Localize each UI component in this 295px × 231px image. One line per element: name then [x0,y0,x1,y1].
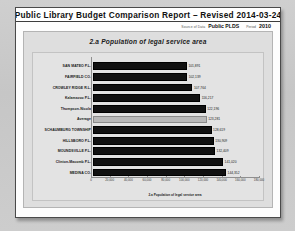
bar [93,94,200,102]
x-axis-tick-mark [184,176,185,178]
x-axis-tick-mark [222,176,223,178]
x-axis-tick-label: 140,000 [216,178,226,182]
bar-category-label: Kalamazoo P.L. [33,96,93,100]
bar-value-label: 144,352 [228,171,240,175]
bar-category-label: Clinton-Macomb P.L. [33,160,93,164]
bar-track: 141,020 [93,157,259,168]
bar-row: Clinton-Macomb P.L.141,020 [33,157,259,168]
bar-value-label: 122,196 [207,107,219,111]
x-axis-tick-mark [259,176,260,178]
bar-track: 132,409 [93,146,259,157]
source-period-line: Source of Data Public PLDS Period 2010 [181,23,271,29]
bar [93,126,212,134]
period-value: 2010 [259,23,271,29]
x-axis-ticks: 020,00040,00060,00080,000100,000120,0001… [91,178,259,187]
bar-row: Average123,281 [33,114,259,125]
bar-category-label: CROWLEY RIDGE R.L. [33,86,93,90]
bar-category-label: MEDINA CO. [33,171,93,175]
bar-value-label: 141,020 [225,160,237,164]
bar-category-label: Average [33,117,93,121]
bar [93,84,192,92]
bar-row: FAIRFIELD CO.102,139 [33,72,259,83]
bar [93,158,223,166]
x-axis-tick-label: 100,000 [179,178,189,182]
x-axis-tick-label: 20,000 [105,178,114,182]
bar [93,169,226,177]
bar-track: 101,891 [93,61,259,72]
bar-value-label: 101,891 [188,64,200,68]
bar-row: Kalamazoo P.L.116,217 [33,93,259,104]
x-axis-tick-mark [166,176,167,178]
bar-value-label: 116,217 [202,96,214,100]
bar-track: 123,281 [93,114,259,125]
chart-plot-area: SAN MATEO P.L.101,891FAIRFIELD CO.102,13… [32,52,264,201]
x-axis-tick-mark [110,176,111,178]
bar-value-label: 128,619 [213,128,225,132]
bar-value-label: 132,409 [217,149,229,153]
report-title-bar: Public Library Budget Comparison Report … [16,8,280,22]
x-axis-tick-mark [203,176,204,178]
bar-track: 116,217 [93,93,259,104]
bar-row: Thompson-Nicola122,196 [33,104,259,115]
x-axis-tick-mark [91,176,92,178]
bar-value-label: 130,909 [215,139,227,143]
x-axis-tick-label: 40,000 [124,178,133,182]
bar [93,73,187,81]
x-axis-tick-label: 160,000 [235,178,245,182]
bar-track: 130,909 [93,135,259,146]
x-axis-tick-mark [240,176,241,178]
bar [93,137,214,145]
x-axis-tick-mark [128,176,129,178]
page-title: Public Library Budget Comparison Report … [15,10,281,20]
bar [93,62,187,70]
bar-row: HILLSBORO P.L.130,909 [33,135,259,146]
x-axis-tick-mark [147,176,148,178]
x-axis-tick-label: 60,000 [143,178,152,182]
x-axis-tick-label: 80,000 [161,178,170,182]
bar-category-label: Thompson-Nicola [33,107,93,111]
period-label: Period [246,25,256,29]
x-axis-title: 2.a Population of legal service area [91,193,259,197]
bar [93,147,215,155]
x-axis-tick-label: 180,000 [254,178,264,182]
report-page: Public Library Budget Comparison Report … [15,7,281,218]
bar-category-label: SAN MATEO P.L. [33,64,93,68]
bar-track: 122,196 [93,104,259,115]
bar-track: 102,139 [93,72,259,83]
bar-row: CROWLEY RIDGE R.L.107,764 [33,82,259,93]
x-axis-tick-label: 120,000 [198,178,208,182]
bar-value-label: 107,764 [194,86,206,90]
bar [93,116,207,124]
source-value: Public PLDS [208,23,239,29]
bar-category-label: HILLSBORO P.L. [33,139,93,143]
bar-value-label: 123,281 [208,117,220,121]
bar-category-label: SCHAUMBURG TOWNSHIP [33,128,93,132]
chart-title: 2.a Population of legal service area [24,38,272,45]
bar-row: MOUNDSVILLE P.L.132,409 [33,146,259,157]
bar-category-label: FAIRFIELD CO. [33,75,93,79]
y-axis-line [91,57,92,178]
bar-track: 107,764 [93,82,259,93]
bar-row: SCHAUMBURG TOWNSHIP128,619 [33,125,259,136]
x-axis-tick-label: 0 [90,178,92,182]
bar-rows: SAN MATEO P.L.101,891FAIRFIELD CO.102,13… [33,61,259,178]
bar-category-label: MOUNDSVILLE P.L. [33,149,93,153]
bar [93,105,206,113]
bar-value-label: 102,139 [189,75,201,79]
bar-row: SAN MATEO P.L.101,891 [33,61,259,72]
chart-panel: 2.a Population of legal service area SAN… [23,31,273,208]
bar-track: 128,619 [93,125,259,136]
source-label: Source of Data [181,25,205,29]
